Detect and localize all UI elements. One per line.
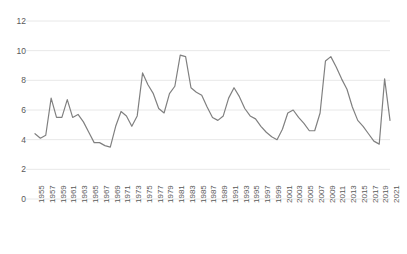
line-chart: 024681012 195519571959196119631965196719…	[0, 0, 407, 254]
y-tick-label: 6	[4, 106, 26, 115]
y-tick-label: 8	[4, 76, 26, 85]
chart-plot-area	[0, 0, 407, 254]
y-tick-label: 10	[4, 47, 26, 56]
y-tick-label: 4	[4, 136, 26, 145]
y-tick-label: 12	[4, 17, 26, 26]
y-tick-label: 0	[4, 195, 26, 204]
data-series-line	[35, 55, 390, 147]
y-tick-label: 2	[4, 165, 26, 174]
